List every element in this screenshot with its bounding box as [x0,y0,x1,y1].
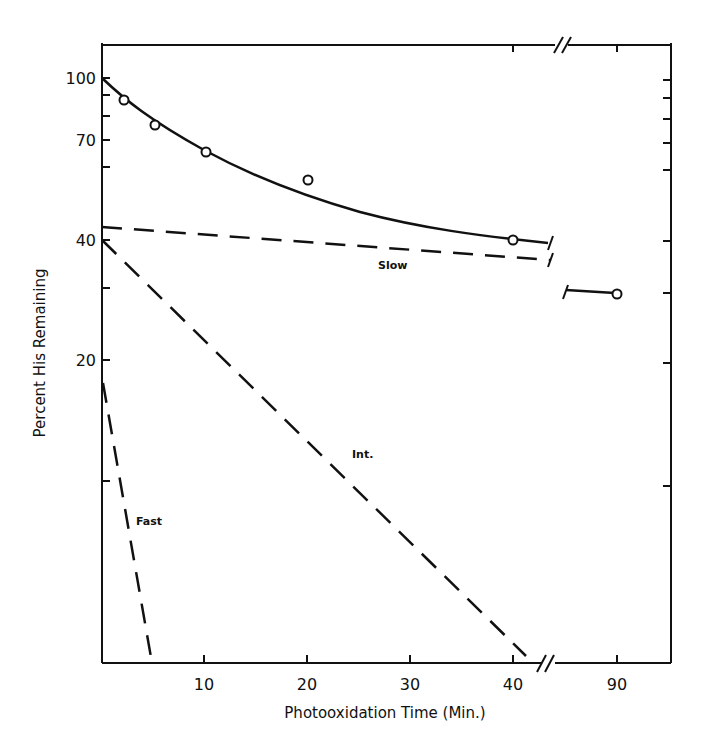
x-axis-label: Photooxidation Time (Min.) [284,704,485,722]
curve-resume-mark [563,285,568,299]
chart: 100 70 40 20 10 20 30 40 90 Photooxidati… [0,0,703,753]
y-axis-label: Percent His Remaining [31,269,49,438]
fast-label: Fast [136,515,162,528]
slow-component-line [102,227,550,260]
axis-break-marks [537,37,571,672]
intermediate-component-line [102,240,526,656]
data-point [304,176,313,185]
y-ticks-right [663,80,671,486]
data-point [120,96,129,105]
observed-curve-after-break [566,290,615,293]
data-point [613,290,622,299]
x-tick-label-10: 10 [194,675,214,694]
plot-frame [102,43,671,663]
x-tick-label-40: 40 [503,675,523,694]
x-ticks [204,45,617,663]
observed-curve [102,78,548,243]
data-point [509,236,518,245]
int-label: Int. [352,448,373,461]
slow-break-mark [548,253,553,267]
x-tick-label-20: 20 [297,675,317,694]
slow-label: Slow [378,259,407,272]
x-tick-label-30: 30 [400,675,420,694]
data-point [202,148,211,157]
x-tick-label-90: 90 [607,675,627,694]
y-tick-label-20: 20 [76,351,96,370]
y-tick-label-40: 40 [76,231,96,250]
data-points [120,96,622,299]
y-tick-label-70: 70 [76,131,96,150]
curve-break-mark [548,236,553,250]
y-tick-label-100: 100 [65,69,96,88]
data-point [151,121,160,130]
